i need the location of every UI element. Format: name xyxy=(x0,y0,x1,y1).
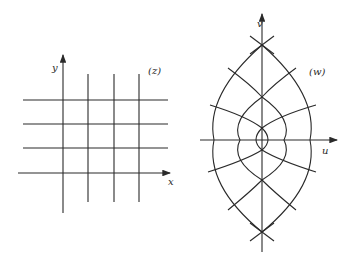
y-axis-label: y xyxy=(51,62,58,73)
conformal-map-diagram: y x (z) xyxy=(0,0,346,263)
z-plane: y x (z) xyxy=(18,55,174,213)
z-plane-label: (z) xyxy=(148,65,161,76)
z-grid-vertical xyxy=(88,74,139,202)
u-axis-label: u xyxy=(322,145,328,156)
w-plane-label: (w) xyxy=(309,66,325,77)
v-axis-label: v xyxy=(257,18,263,29)
w-plane: v u (w) xyxy=(200,14,337,252)
z-grid-horizontal xyxy=(23,100,168,148)
x-axis-label: x xyxy=(168,176,174,187)
